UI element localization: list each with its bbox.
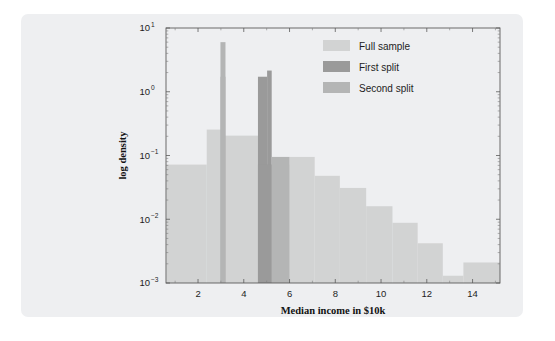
legend-label: First split bbox=[359, 62, 399, 73]
y-tick-label: 10−1 bbox=[139, 148, 158, 161]
x-tick-label: 6 bbox=[287, 288, 292, 299]
histogram-bar bbox=[463, 262, 500, 283]
y-tick-label: 10−2 bbox=[139, 212, 158, 225]
legend-label: Full sample bbox=[359, 41, 411, 52]
chart-plot-area: 246810121410−310−210−1100101Median incom… bbox=[21, 14, 523, 317]
series-first-split bbox=[258, 71, 272, 283]
histogram-bar bbox=[258, 165, 272, 283]
legend-swatch bbox=[323, 61, 350, 72]
svg-text:10: 10 bbox=[139, 22, 150, 33]
histogram-bar bbox=[443, 276, 464, 283]
svg-text:−2: −2 bbox=[151, 212, 159, 219]
x-tick-label: 4 bbox=[241, 288, 246, 299]
svg-text:1: 1 bbox=[151, 21, 155, 28]
histogram-bar bbox=[224, 136, 264, 283]
legend-swatch bbox=[323, 40, 350, 51]
histogram-bar bbox=[418, 243, 443, 283]
y-tick-label: 100 bbox=[139, 84, 155, 97]
histogram-bar bbox=[366, 206, 392, 283]
y-axis-title: log density bbox=[117, 131, 128, 180]
histogram-bar bbox=[340, 188, 366, 283]
svg-text:−3: −3 bbox=[151, 276, 159, 283]
y-tick-label: 10−3 bbox=[139, 276, 158, 289]
histogram-bar bbox=[315, 176, 340, 283]
histogram-bar bbox=[290, 157, 315, 283]
svg-text:10: 10 bbox=[139, 214, 150, 225]
x-tick-label: 12 bbox=[422, 288, 433, 299]
y-tick-label: 101 bbox=[139, 21, 155, 34]
svg-text:−1: −1 bbox=[151, 148, 159, 155]
x-tick-label: 10 bbox=[376, 288, 387, 299]
svg-text:10: 10 bbox=[139, 150, 150, 161]
histogram-bar bbox=[220, 77, 225, 283]
legend-swatch bbox=[323, 82, 350, 93]
svg-text:10: 10 bbox=[139, 86, 150, 97]
histogram-bar bbox=[392, 223, 417, 283]
figure-card: 246810121410−310−210−1100101Median incom… bbox=[21, 14, 523, 317]
x-axis-title: Median income in $10k bbox=[281, 305, 386, 316]
histogram-bar bbox=[272, 157, 290, 283]
histogram-bar bbox=[166, 165, 206, 283]
x-tick-label: 14 bbox=[467, 288, 478, 299]
x-tick-label: 2 bbox=[195, 288, 200, 299]
svg-text:0: 0 bbox=[151, 84, 155, 91]
legend-label: Second split bbox=[359, 83, 414, 94]
x-tick-label: 8 bbox=[333, 288, 338, 299]
histogram-chart: 246810121410−310−210−1100101Median incom… bbox=[21, 14, 523, 317]
svg-text:10: 10 bbox=[139, 277, 150, 288]
